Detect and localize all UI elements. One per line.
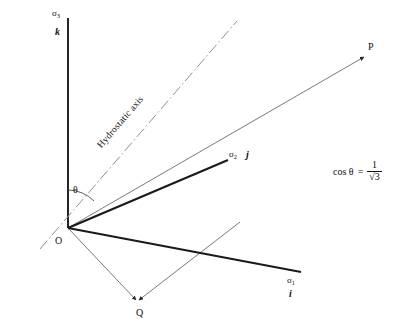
sigma1-axis-label: σ1 bbox=[287, 276, 295, 285]
point-q-label: Q bbox=[136, 308, 143, 318]
pq-projection-line bbox=[139, 222, 240, 300]
op-line bbox=[68, 57, 364, 228]
sigma2-axis-line bbox=[68, 160, 228, 228]
sigma2-axis-label: σ2 bbox=[229, 150, 237, 159]
stress-space-diagram: σ3 k σ2 j σ1 i O P Q θ Hydrostatic axis … bbox=[0, 0, 411, 330]
theta-angle-label: θ bbox=[73, 185, 78, 195]
equation-numerator: 1 bbox=[369, 160, 380, 171]
k-basis-label: k bbox=[55, 27, 60, 37]
equation-denominator: √3 bbox=[367, 172, 382, 183]
j-basis-label: j bbox=[246, 150, 249, 160]
sigma3-axis-label: σ3 bbox=[52, 9, 60, 18]
i-basis-label: i bbox=[289, 289, 292, 299]
equation-lhs: cos θ bbox=[333, 166, 354, 177]
equation-fraction: 1 √3 bbox=[367, 160, 382, 182]
cos-theta-equation: cos θ = 1 √3 bbox=[333, 160, 382, 182]
point-p-label: P bbox=[368, 42, 374, 52]
hydrostatic-axis-line bbox=[40, 21, 237, 249]
origin-label: O bbox=[55, 236, 62, 246]
equation-equals-sign: = bbox=[357, 166, 365, 177]
